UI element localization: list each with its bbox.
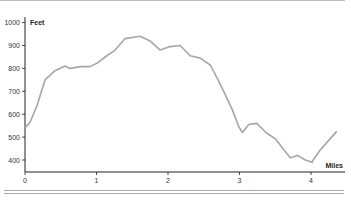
elevation-chart: 1000900800700600500400 01234 Feet Miles (0, 0, 351, 201)
bottom-divider (4, 190, 344, 191)
y-ticks: 1000900800700600500400 (4, 19, 25, 163)
y-axis-title: Feet (30, 19, 45, 26)
y-tick-label: 1000 (4, 19, 20, 26)
y-tick-label: 500 (8, 134, 20, 141)
bottom-divider-2 (4, 193, 344, 194)
x-tick-label: 0 (23, 177, 27, 184)
y-tick-label: 400 (8, 157, 20, 164)
x-tick-label: 3 (238, 177, 242, 184)
x-tick-label: 4 (309, 177, 313, 184)
x-tick-label: 2 (166, 177, 170, 184)
x-ticks: 01234 (23, 172, 313, 184)
elevation-line (25, 36, 337, 162)
y-tick-label: 800 (8, 65, 20, 72)
x-tick-label: 1 (95, 177, 99, 184)
y-tick-label: 600 (8, 111, 20, 118)
y-tick-label: 900 (8, 42, 20, 49)
y-tick-label: 700 (8, 88, 20, 95)
x-axis-title: Miles (325, 162, 343, 169)
